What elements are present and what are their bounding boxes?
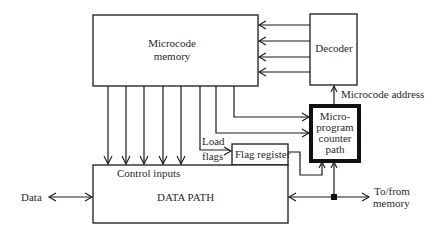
memory-bus-arrow: To/from memory — [289, 162, 410, 209]
microcode-memory-label-1: Microcode — [148, 37, 196, 49]
data-path-block: Control inputs DATA PATH — [93, 165, 288, 223]
to-from-label-1: To/from — [374, 185, 410, 197]
load-flags-label-2: flags — [202, 150, 223, 162]
micro-program-counter-block: Micro- program counter path — [311, 106, 359, 161]
mpc-label-4: path — [326, 143, 345, 155]
load-flags-label-1: Load — [202, 135, 225, 147]
decoder-label: Decoder — [315, 42, 353, 54]
decoder-block: Decoder — [310, 14, 357, 85]
microcode-memory-block: Microcode memory — [93, 15, 258, 86]
microcode-address-arrow: Microcode address — [331, 86, 424, 104]
to-from-label-2: memory — [373, 197, 410, 209]
microcode-address-label: Microcode address — [341, 88, 424, 100]
control-inputs-label: Control inputs — [117, 167, 180, 179]
flag-register-block: Flag register — [232, 144, 291, 165]
flag-register-label: Flag register — [235, 148, 291, 160]
control-input-lines — [104, 86, 185, 164]
microcode-memory-label-2: memory — [154, 50, 191, 62]
data-label: Data — [21, 191, 42, 203]
data-bus-arrow: Data — [21, 191, 92, 203]
data-path-label: DATA PATH — [157, 191, 214, 203]
junction-dot — [331, 194, 337, 200]
block-diagram: Microcode memory Decoder Micro- program … — [0, 0, 447, 239]
arrow-head-icon — [224, 147, 231, 155]
decoder-to-memory-arrows — [259, 21, 310, 76]
memory-to-mpc-lines — [216, 86, 309, 137]
